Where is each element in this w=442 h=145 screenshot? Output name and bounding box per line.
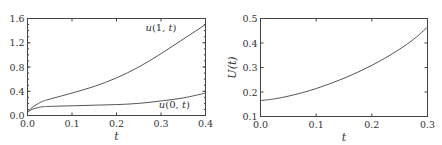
x-tick-label: 0.1	[309, 119, 324, 130]
x-tick-label: 0.2	[109, 118, 124, 129]
x-tick-label: 0.4	[198, 118, 213, 129]
y-tick-label: 0.0	[9, 110, 24, 121]
x-tick-label: 0.3	[420, 119, 435, 130]
y-tick-label: 0.8	[9, 62, 24, 73]
x-tick-label: 0.3	[153, 118, 168, 129]
series-annotation: u(0, t)	[159, 99, 190, 110]
x-tick-label: 0.2	[364, 119, 379, 130]
y-tick-label: 0.4	[242, 38, 257, 49]
y-tick-label: 1.2	[9, 37, 24, 48]
x-tick-label: 0.1	[64, 118, 79, 129]
right-plot: 0.00.10.20.30.10.20.30.40.5tU(t)	[226, 13, 436, 144]
y-tick-label: 0.3	[242, 62, 257, 73]
figure: 0.00.10.20.30.40.00.40.81.21.6u(1, t)u(0…	[0, 0, 442, 145]
y-tick-label: 0.2	[242, 87, 257, 98]
y-tick-label: 0.5	[242, 13, 257, 24]
plot-frame	[261, 19, 428, 117]
left-plot: 0.00.10.20.30.40.00.40.81.21.6u(1, t)u(0…	[9, 13, 213, 143]
y-tick-label: 1.6	[9, 13, 24, 24]
y-tick-label: 0.4	[9, 86, 24, 97]
series-line	[261, 27, 428, 101]
x-axis-label: t	[114, 130, 119, 143]
y-tick-label: 0.1	[242, 111, 257, 122]
series-annotation: u(1, t)	[145, 22, 176, 33]
y-axis-label: U(t)	[226, 56, 239, 78]
x-axis-label: t	[342, 131, 347, 144]
